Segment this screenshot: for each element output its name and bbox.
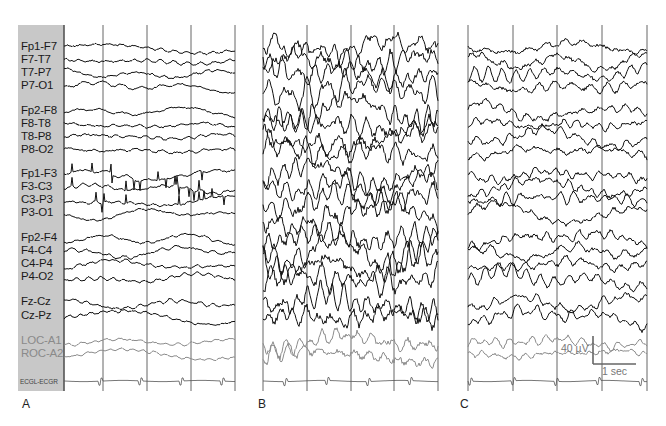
trace-p7-o1	[64, 81, 235, 94]
trace-fp1-f7	[64, 43, 235, 54]
trace-cz-pz	[468, 304, 647, 332]
trace-f4-c4	[64, 245, 235, 259]
trace-t7-p7	[64, 68, 235, 79]
panel-letter-b: B	[258, 397, 266, 411]
trace-fp2-f8	[263, 91, 438, 133]
trace-loc-a1	[64, 338, 235, 346]
trace-cz-pz	[263, 303, 438, 330]
trace-f7-t7	[468, 53, 647, 73]
trace-roc-a2	[64, 348, 235, 361]
trace-roc-a2	[468, 349, 647, 361]
trace-t7-p7	[468, 63, 647, 84]
trace-p3-o1	[468, 201, 647, 227]
trace-fp1-f7	[468, 39, 647, 55]
trace-c3-p3	[64, 189, 235, 213]
trace-fp2-f4	[263, 221, 438, 253]
eeg-figure: Fp1-F7F7-T7T7-P7P7-O1Fp2-F8F8-T8T8-P8P8-…	[0, 0, 666, 426]
trace-ecgl-ecgr	[263, 378, 438, 386]
eeg-traces	[0, 0, 666, 426]
trace-f4-c4	[468, 241, 647, 262]
trace-p4-o2	[64, 272, 235, 284]
scale-voltage-label: 40 µV	[561, 342, 589, 354]
trace-p7-o1	[263, 68, 438, 111]
panel-letter-c: C	[460, 397, 469, 411]
trace-p4-o2	[263, 262, 438, 299]
trace-t8-p8	[64, 133, 235, 140]
trace-p7-o1	[468, 80, 647, 95]
trace-f7-t7	[64, 58, 235, 65]
trace-fp2-f8	[468, 98, 647, 121]
trace-fp2-f4	[64, 233, 235, 245]
trace-fz-cz	[64, 298, 235, 309]
panel-letter-a: A	[22, 397, 30, 411]
trace-p8-o2	[468, 145, 647, 161]
trace-t8-p8	[468, 125, 647, 150]
trace-p8-o2	[263, 129, 438, 166]
trace-fp2-f8	[64, 107, 235, 118]
trace-f8-t8	[64, 122, 235, 128]
trace-fz-cz	[468, 293, 647, 313]
trace-ecgl-ecgr	[468, 378, 647, 386]
trace-c4-p4	[64, 259, 235, 269]
trace-cz-pz	[64, 309, 235, 325]
trace-p4-o2	[468, 263, 647, 292]
scale-time-label: 1 sec	[602, 365, 627, 377]
trace-p8-o2	[64, 147, 235, 154]
trace-ecgl-ecgr	[64, 378, 235, 385]
trace-fz-cz	[263, 280, 438, 324]
trace-c4-p4	[468, 255, 647, 273]
trace-p3-o1	[64, 208, 235, 221]
trace-p3-o1	[263, 189, 438, 237]
trace-loc-a1	[468, 335, 647, 352]
